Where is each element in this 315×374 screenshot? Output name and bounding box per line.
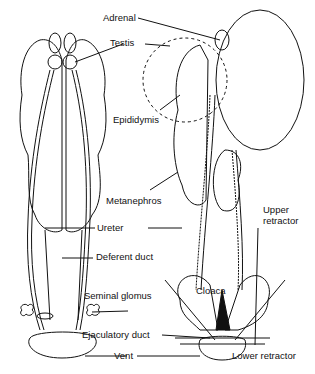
diagram-drawing	[0, 0, 315, 374]
right-view	[143, 10, 304, 360]
label-deferent-duct: Deferent duct	[96, 252, 153, 262]
left-epid-1	[48, 55, 62, 69]
left-testis-1	[49, 33, 61, 53]
label-lower-retractor: Lower retractor	[232, 351, 296, 361]
label-vent: Vent	[114, 351, 133, 361]
left-view	[20, 33, 106, 358]
label-upper-retractor-2: retractor	[263, 216, 298, 226]
label-ureter: Ureter	[97, 223, 123, 233]
label-ejaculatory-duct: Ejaculatory duct	[82, 330, 150, 340]
label-testis: Testis	[110, 38, 134, 48]
label-seminal-glomus: Seminal glomus	[84, 291, 152, 301]
label-upper-retractor-1: Upper	[263, 205, 289, 215]
label-cloaca: Cloaca	[196, 286, 226, 296]
label-adrenal: Adrenal	[103, 13, 136, 23]
large-testis	[216, 10, 304, 150]
cloaca	[216, 290, 230, 330]
label-epididymis: Epididymis	[113, 115, 159, 125]
left-epid-2	[63, 55, 77, 69]
right-kidney-left	[174, 45, 208, 205]
adrenal	[215, 30, 229, 50]
label-metanephros: Metanephros	[106, 196, 161, 206]
